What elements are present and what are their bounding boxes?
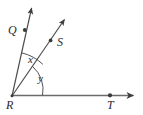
vertex-label-r: R	[6, 99, 13, 111]
angle-label-x: x	[28, 54, 33, 65]
vertex-point-r	[11, 94, 14, 97]
geometry-canvas	[0, 0, 143, 115]
point-marker-q	[23, 28, 27, 32]
ray-rq-line	[12, 8, 32, 96]
point-label-q: Q	[8, 24, 17, 36]
point-marker-t	[108, 93, 112, 97]
point-label-s: S	[57, 36, 63, 48]
angle-label-y: y	[38, 73, 43, 84]
ray-rs-line	[12, 20, 65, 97]
geometry-figure: Q S R T x y	[0, 0, 143, 115]
point-label-t: T	[107, 99, 114, 111]
point-marker-s	[49, 39, 53, 43]
